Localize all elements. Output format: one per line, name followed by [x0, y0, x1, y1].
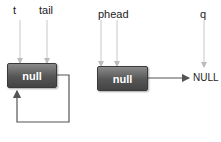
linked-list-diagram: t tail null phead q null NULL	[0, 0, 221, 142]
pointer-label-tail: tail	[39, 5, 53, 16]
node-left-value: null	[22, 70, 42, 82]
pointer-label-phead: phead	[98, 9, 129, 20]
pointer-label-q: q	[200, 9, 206, 20]
node-left: null	[7, 63, 57, 88]
pointer-label-t: t	[13, 5, 16, 16]
node-right-value: null	[113, 73, 133, 85]
null-target-label: NULL	[193, 73, 219, 83]
node-right: null	[97, 66, 148, 91]
